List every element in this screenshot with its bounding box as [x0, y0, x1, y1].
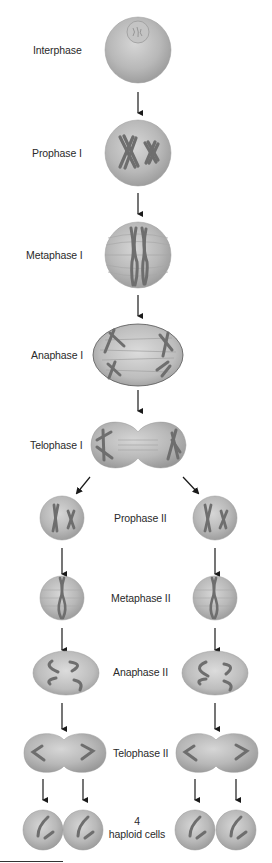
interphase-cell — [105, 17, 171, 83]
haploid-cell — [216, 810, 256, 850]
label-metaphase-2: Metaphase II — [111, 592, 171, 604]
prophase-1-cell — [105, 120, 171, 186]
haploid-cell — [175, 810, 215, 850]
prophase-2-right-cell — [193, 496, 237, 540]
haploid-cell — [23, 810, 63, 850]
telophase-2-left-cell — [24, 734, 106, 773]
label-prophase-2: Prophase II — [114, 512, 167, 524]
telophase-2-right-cell — [176, 734, 258, 773]
meiosis-diagram — [0, 0, 272, 863]
anaphase-2-left-cell — [33, 651, 99, 695]
label-anaphase-1: Anaphase I — [31, 349, 83, 361]
metaphase-2-left-cell — [40, 576, 84, 620]
metaphase-1-cell — [105, 222, 171, 288]
haploid-cell — [63, 810, 103, 850]
telophase-1-cell — [91, 422, 186, 468]
anaphase-2-right-cell — [182, 651, 248, 695]
label-haploid-count: 4 — [112, 815, 162, 827]
arrow-down-right-icon — [183, 477, 198, 493]
label-telophase-2: Telophase II — [113, 747, 168, 759]
label-haploid-cells: haploid cells — [107, 828, 167, 840]
label-anaphase-2: Anaphase II — [113, 666, 168, 678]
arrow-down-left-icon — [77, 477, 90, 493]
label-prophase-1: Prophase I — [32, 147, 82, 159]
footer-rule — [0, 861, 63, 862]
label-telophase-1: Telophase I — [30, 439, 83, 451]
label-interphase: Interphase — [33, 44, 82, 56]
metaphase-2-right-cell — [193, 576, 237, 620]
prophase-2-left-cell — [40, 496, 84, 540]
label-metaphase-1: Metaphase I — [26, 249, 83, 261]
anaphase-1-cell — [93, 324, 183, 386]
